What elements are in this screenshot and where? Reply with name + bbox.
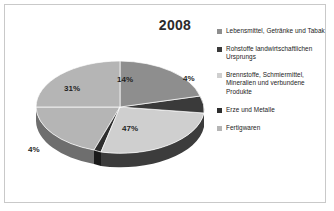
legend-item-label: Erze und Metalle bbox=[226, 106, 275, 115]
legend-item-rohstoffe: Rohstoffe landwirtschaftlichen Ursprungs bbox=[217, 45, 325, 62]
legend-item-label: Fertigwaren bbox=[226, 124, 260, 133]
legend-swatch-icon bbox=[217, 47, 222, 52]
chart-title: 2008 bbox=[135, 17, 215, 33]
chart-frame: 2008 bbox=[4, 4, 326, 203]
pie-label-lebensmittel: 14% bbox=[117, 75, 133, 84]
legend-item-label: Rohstoffe landwirtschaftlichen Ursprungs bbox=[226, 45, 325, 62]
legend-swatch-icon bbox=[217, 73, 222, 78]
pie-label-erze: 4% bbox=[28, 145, 40, 154]
pie-label-brennstoffe: 47% bbox=[122, 124, 138, 133]
legend-item-brennstoffe: Brennstoffe, Schmiermittel, Mineralien u… bbox=[217, 71, 325, 97]
chart-legend: Lebensmittel, Getränke und Tabak Rohstof… bbox=[217, 27, 325, 142]
legend-item-label: Lebensmittel, Getränke und Tabak bbox=[226, 27, 325, 36]
legend-swatch-icon bbox=[217, 108, 222, 113]
legend-swatch-icon bbox=[217, 126, 222, 131]
pie-chart: 14% 4% 47% 4% 31% bbox=[31, 61, 209, 177]
legend-swatch-icon bbox=[217, 29, 222, 34]
pie-label-fertigwaren: 31% bbox=[64, 84, 80, 93]
pie-wall-erze bbox=[94, 150, 101, 166]
legend-item-label: Brennstoffe, Schmiermittel, Mineralien u… bbox=[226, 71, 325, 97]
legend-item-fertigwaren: Fertigwaren bbox=[217, 124, 325, 133]
pie-label-rohstoffe: 4% bbox=[183, 74, 195, 83]
legend-item-lebensmittel: Lebensmittel, Getränke und Tabak bbox=[217, 27, 325, 36]
legend-item-erze: Erze und Metalle bbox=[217, 106, 325, 115]
